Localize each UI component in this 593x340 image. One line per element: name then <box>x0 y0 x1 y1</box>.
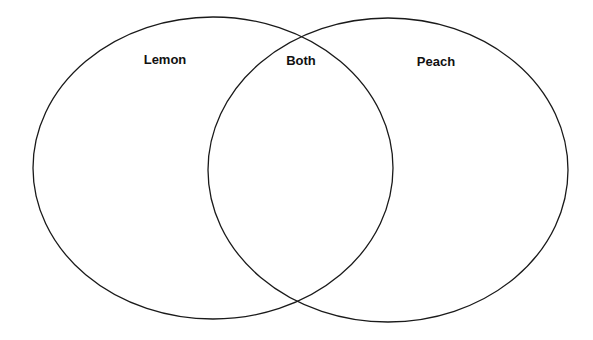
venn-diagram <box>0 0 593 340</box>
lemon-label: Lemon <box>144 52 187 67</box>
lemon-circle <box>33 17 393 319</box>
both-label: Both <box>286 53 316 68</box>
peach-label: Peach <box>417 54 455 69</box>
peach-circle <box>208 18 568 322</box>
